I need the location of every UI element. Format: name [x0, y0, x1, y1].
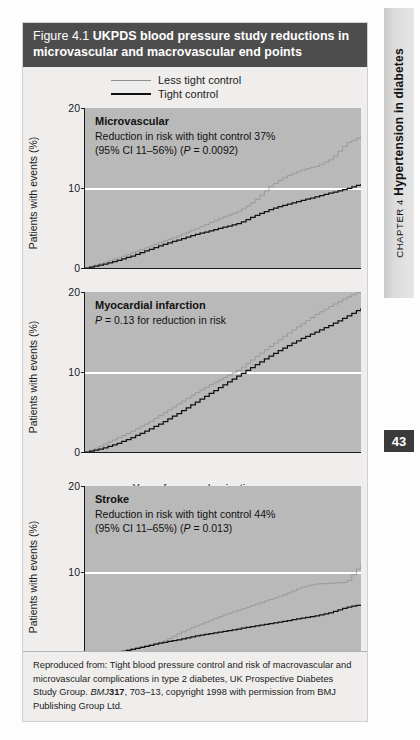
chapter-prefix: CHAPTER 4 [394, 199, 405, 258]
annotation-microvascular: MicrovascularReduction in risk with tigh… [95, 114, 275, 157]
legend-item-tight-control: Tight control [23, 88, 367, 100]
source-note: Reproduced from: Tight blood pressure co… [23, 651, 367, 721]
source-journal: BMJ [90, 687, 109, 697]
legend-label-less-tight: Less tight control [158, 74, 241, 86]
plot-area-myocardial-infarction: 01020Myocardial infarctionP = 0.13 for r… [85, 292, 361, 452]
y-tick-label-0: 0 [74, 262, 80, 274]
chart-panel-stroke: Patients with events (%)01020StrokeReduc… [23, 482, 367, 672]
y-axis-label-microvascular: Patients with events (%) [25, 104, 41, 282]
legend-line-icon-less-tight [111, 80, 151, 81]
source-pages: , 703–13, [124, 687, 165, 697]
y-axis-label-stroke: Patients with events (%) [25, 482, 41, 672]
panel-title: Myocardial infarction [95, 298, 226, 313]
y-tick-label-20: 20 [68, 286, 80, 298]
annotation-myocardial-infarction: Myocardial infarctionP = 0.13 for reduct… [95, 298, 226, 327]
chart-panel-myocardial-infarction: Patients with events (%)01020Myocardial … [23, 288, 367, 466]
chapter-title: Hypertension in diabetes [392, 48, 406, 196]
legend-item-less-tight-control: Less tight control [23, 74, 367, 86]
y-tick-label-10: 10 [68, 182, 80, 194]
chapter-tab: CHAPTER 4 Hypertension in diabetes [384, 8, 414, 298]
y-axis-label-text: Patients with events (%) [27, 137, 39, 250]
annotation-line-1: Reduction in risk with tight control 44% [95, 507, 275, 521]
y-tick-label-10: 10 [68, 566, 80, 578]
chart-panel-microvascular: Patients with events (%)01020Microvascul… [23, 104, 367, 282]
y-tick-label-0: 0 [74, 446, 80, 458]
annotation-stroke: StrokeReduction in risk with tight contr… [95, 492, 275, 535]
figure-legend: Less tight control Tight control [23, 67, 367, 104]
series-less-tight-control [85, 564, 361, 659]
plot-area-stroke: 01020StrokeReduction in risk with tight … [85, 486, 361, 658]
y-tick-label-20: 20 [68, 480, 80, 492]
y-tick-label-10: 10 [68, 366, 80, 378]
figure-header: Figure 4.1 UKPDS blood pressure study re… [23, 23, 367, 67]
figure-number: Figure 4.1 [33, 29, 89, 43]
panel-title: Stroke [95, 492, 275, 507]
plot-area-microvascular: 01020MicrovascularReduction in risk with… [85, 108, 361, 268]
y-axis-label-text: Patients with events (%) [27, 321, 39, 434]
chart-stack: Patients with events (%)01020Microvascul… [23, 104, 367, 672]
panel-title: Microvascular [95, 114, 275, 129]
chapter-tab-label: CHAPTER 4 Hypertension in diabetes [392, 48, 406, 258]
legend-line-icon-tight [111, 93, 151, 95]
y-axis-label-text: Patients with events (%) [27, 521, 39, 634]
y-axis-label-myocardial-infarction: Patients with events (%) [25, 288, 41, 466]
annotation-line-2: (95% CI 11–65%) (P = 0.013) [95, 521, 275, 535]
source-volume: 317 [109, 687, 125, 697]
legend-label-tight: Tight control [158, 88, 218, 100]
page-canvas: CHAPTER 4 Hypertension in diabetes 43 Fi… [0, 0, 420, 740]
page-number: 43 [384, 430, 414, 452]
annotation-line-1: Reduction in risk with tight control 37% [95, 129, 275, 143]
annotation-line-2: (95% CI 11–56%) (P = 0.0092) [95, 143, 275, 157]
annotation-line-1: P = 0.13 for reduction in risk [95, 313, 226, 327]
y-tick-label-20: 20 [68, 102, 80, 114]
figure-card: Figure 4.1 UKPDS blood pressure study re… [22, 22, 368, 722]
